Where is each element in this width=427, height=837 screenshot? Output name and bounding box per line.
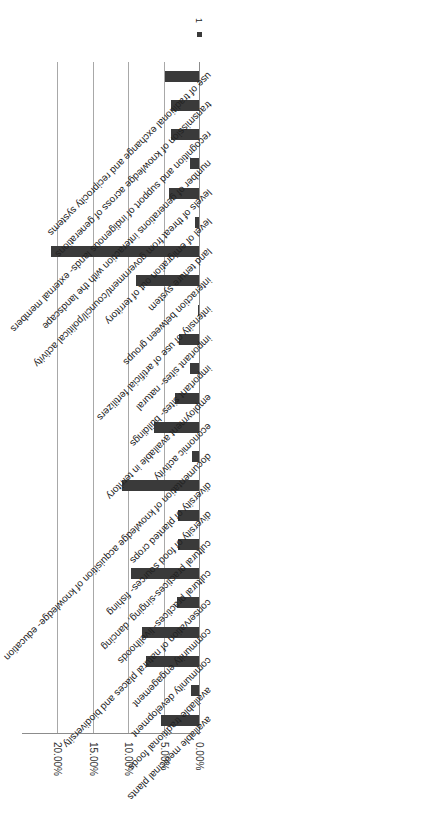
bar: [165, 71, 199, 82]
tick-label: 15.00%: [88, 742, 99, 776]
legend-swatch: [197, 32, 202, 37]
rotated-bar-chart: 1 0.00%5.00%10.00%15.00%20.00% available…: [0, 0, 427, 837]
gridline: [93, 62, 94, 733]
tick-label: 20.00%: [52, 742, 63, 776]
gridline: [57, 62, 58, 733]
legend: 1: [195, 18, 209, 42]
tick-label: 0.00%: [194, 742, 205, 770]
legend-label: 1: [194, 18, 204, 23]
